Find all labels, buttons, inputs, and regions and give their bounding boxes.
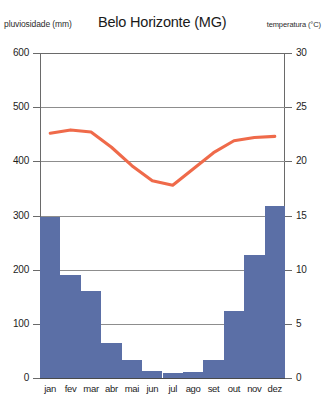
left-axis-title: pluviosidade (mm)	[4, 19, 72, 29]
y-tick-left-0	[33, 378, 40, 379]
bar-fev	[60, 275, 80, 378]
bar-jan	[40, 217, 60, 378]
y-label-left-300: 300	[0, 211, 29, 221]
bar-jul	[163, 373, 183, 378]
y-tick-right-15	[285, 216, 292, 217]
y-label-left-0: 0	[0, 373, 29, 383]
month-label-fev: fev	[60, 383, 80, 395]
y-label-left-400: 400	[0, 156, 29, 166]
y-tick-left-600	[33, 53, 40, 54]
y-label-right-30: 30	[296, 48, 323, 58]
month-label-mai: mai	[122, 383, 142, 395]
plot-frame-bottom	[40, 378, 285, 379]
y-tick-left-300	[33, 216, 40, 217]
right-axis-title: temperatura (°C)	[267, 20, 321, 29]
precipitation-bars	[40, 53, 285, 378]
y-tick-right-5	[285, 324, 292, 325]
bar-mai	[122, 360, 142, 378]
chart-header: pluviosidade (mm) Belo Horizonte (MG) te…	[0, 14, 323, 34]
y-tick-left-100	[33, 324, 40, 325]
month-label-nov: nov	[244, 383, 264, 395]
y-tick-right-10	[285, 270, 292, 271]
y-label-right-0: 0	[296, 373, 323, 383]
y-tick-right-20	[285, 161, 292, 162]
bar-dez	[265, 206, 285, 378]
bar-mar	[81, 291, 101, 378]
y-tick-left-400	[33, 161, 40, 162]
month-label-out: out	[224, 383, 244, 395]
month-label-jun: jun	[142, 383, 162, 395]
month-label-set: set	[203, 383, 223, 395]
month-label-ago: ago	[183, 383, 203, 395]
y-label-right-20: 20	[296, 156, 323, 166]
y-tick-right-25	[285, 107, 292, 108]
y-tick-left-200	[33, 270, 40, 271]
y-tick-right-0	[285, 378, 292, 379]
month-label-abr: abr	[101, 383, 121, 395]
y-label-left-200: 200	[0, 265, 29, 275]
y-tick-left-500	[33, 107, 40, 108]
y-label-left-600: 600	[0, 48, 29, 58]
bar-out	[224, 311, 244, 378]
y-tick-right-30	[285, 53, 292, 54]
y-label-right-25: 25	[296, 102, 323, 112]
month-label-jul: jul	[163, 383, 183, 395]
y-label-left-100: 100	[0, 319, 29, 329]
y-label-right-15: 15	[296, 211, 323, 221]
x-axis-month-labels: janfevmarabrmaijunjulagosetoutnovdez	[40, 383, 285, 399]
climograph-figure: pluviosidade (mm) Belo Horizonte (MG) te…	[0, 0, 323, 415]
bar-set	[203, 360, 223, 378]
chart-title: Belo Horizonte (MG)	[98, 14, 226, 30]
month-label-mar: mar	[81, 383, 101, 395]
y-label-right-5: 5	[296, 319, 323, 329]
y-label-left-500: 500	[0, 102, 29, 112]
bar-abr	[101, 343, 121, 378]
bar-nov	[244, 255, 264, 378]
y-label-right-10: 10	[296, 265, 323, 275]
bar-ago	[183, 372, 203, 379]
bar-jun	[142, 371, 162, 378]
month-label-jan: jan	[40, 383, 60, 395]
month-label-dez: dez	[265, 383, 285, 395]
